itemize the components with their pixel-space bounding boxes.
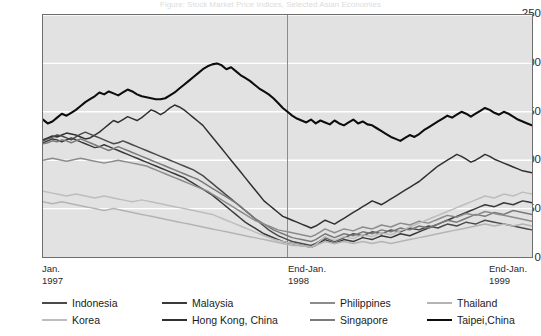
x-label-mid: End-Jan. 1998	[288, 263, 326, 286]
legend-label-taipei: Taipei,China	[457, 314, 515, 326]
legend-swatch-indonesia	[42, 302, 67, 304]
legend-label-singapore: Singapore	[340, 314, 388, 326]
legend-swatch-singapore	[310, 319, 335, 321]
stock-index-line-chart: Figure: Stock Market Price Indices, Sele…	[0, 0, 541, 336]
legend-swatch-hongkong	[162, 319, 187, 321]
x-label-start: Jan. 1997	[42, 263, 63, 286]
legend: IndonesiaMalaysiaPhilippinesThailand Kor…	[42, 295, 533, 329]
chart-title-cropped: Figure: Stock Market Price Indices, Sele…	[0, 0, 541, 9]
legend-row-1: IndonesiaMalaysiaPhilippinesThailand	[42, 295, 533, 311]
legend-label-malaysia: Malaysia	[192, 297, 233, 309]
legend-item-hongkong[interactable]: Hong Kong, China	[162, 312, 278, 328]
series-line-taipei-china	[43, 63, 532, 140]
legend-label-philippines: Philippines	[340, 297, 391, 309]
legend-item-indonesia[interactable]: Indonesia	[42, 295, 118, 311]
legend-item-singapore[interactable]: Singapore	[310, 312, 388, 328]
series-lines	[43, 15, 532, 257]
legend-item-korea[interactable]: Korea	[42, 312, 100, 328]
legend-item-malaysia[interactable]: Malaysia	[162, 295, 233, 311]
legend-item-philippines[interactable]: Philippines	[310, 295, 391, 311]
legend-item-thailand[interactable]: Thailand	[427, 295, 497, 311]
series-line-malaysia	[43, 138, 532, 247]
legend-item-taipei[interactable]: Taipei,China	[427, 312, 515, 328]
legend-swatch-thailand	[427, 302, 452, 304]
x-label-mid-line1: End-Jan.	[288, 263, 326, 275]
legend-row-2: KoreaHong Kong, ChinaSingaporeTaipei,Chi…	[42, 312, 533, 328]
x-label-start-line1: Jan.	[42, 263, 63, 275]
legend-label-korea: Korea	[72, 314, 100, 326]
legend-swatch-korea	[42, 319, 67, 321]
x-label-end-line2: 1999	[489, 275, 527, 287]
plot-area	[42, 14, 533, 258]
x-label-end: End-Jan. 1999	[489, 263, 527, 286]
legend-swatch-philippines	[310, 302, 335, 304]
legend-swatch-malaysia	[162, 302, 187, 304]
series-line-singapore	[43, 139, 532, 242]
legend-swatch-taipei	[427, 319, 452, 321]
legend-label-indonesia: Indonesia	[72, 297, 118, 309]
legend-label-hongkong: Hong Kong, China	[192, 314, 278, 326]
legend-label-thailand: Thailand	[457, 297, 497, 309]
x-label-start-line2: 1997	[42, 275, 63, 287]
x-label-end-line1: End-Jan.	[489, 263, 527, 275]
x-label-mid-line2: 1998	[288, 275, 326, 287]
